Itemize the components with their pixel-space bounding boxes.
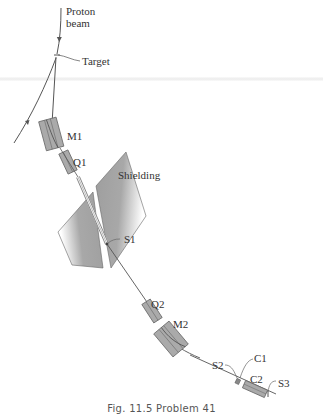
label-shielding: Shielding <box>118 169 161 181</box>
label-m1: M1 <box>67 130 82 142</box>
counter-s2-c1 <box>225 359 253 385</box>
label-target: Target <box>82 55 110 67</box>
figure-caption: Fig. 11.5 Problem 41 <box>0 403 323 414</box>
label-proton-beam-1: Proton <box>66 5 96 17</box>
label-s1: S1 <box>124 233 136 245</box>
proton-beam <box>57 8 62 54</box>
label-proton-beam-2: beam <box>66 17 90 29</box>
target-marker <box>54 55 80 61</box>
magnet-m1 <box>39 117 64 151</box>
secondary-beam-lower <box>107 244 276 394</box>
label-q2: Q2 <box>151 298 164 310</box>
label-c2: C2 <box>250 373 263 385</box>
label-c1: C1 <box>254 352 267 364</box>
label-m2: M2 <box>173 318 188 330</box>
beamline-diagram: Proton beam Target M1 Q1 Shielding S1 Q2… <box>0 0 323 414</box>
label-q1: Q1 <box>73 156 86 168</box>
beam-arrow-icon <box>57 37 62 42</box>
label-s2: S2 <box>212 359 224 371</box>
counter-s3 <box>268 381 276 397</box>
label-s3: S3 <box>278 377 290 389</box>
